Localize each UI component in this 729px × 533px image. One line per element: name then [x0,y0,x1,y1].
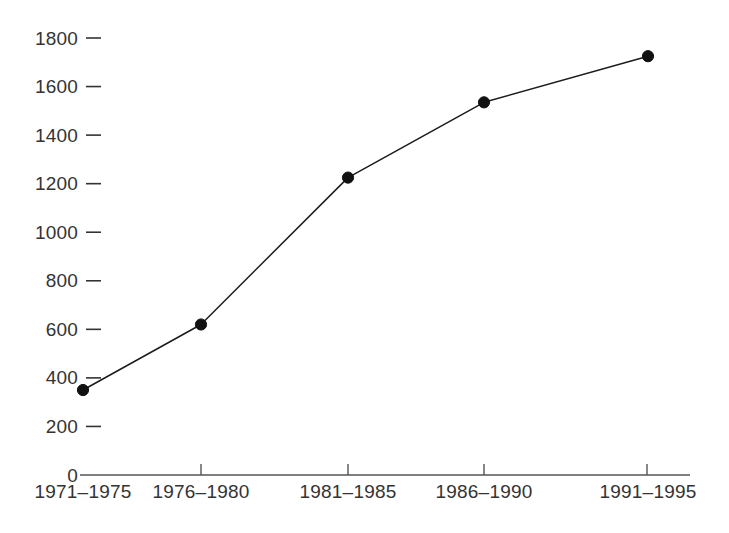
x-axis: 1971–19751976–19801981–19851986–19901991… [35,464,697,502]
y-axis-tick-label: 400 [46,367,78,388]
chart-canvas: 020040060080010001200140016001800 1971–1… [0,0,729,533]
y-axis-tick-label: 1800 [35,28,78,49]
line-chart: 020040060080010001200140016001800 1971–1… [0,0,729,533]
data-point-marker: 1991–1995: 1725 [642,51,653,62]
data-series: 1971–1975: 3501976–1980: 6201981–1985: 1… [77,51,653,396]
y-axis-tick-label: 200 [46,416,78,437]
x-axis-tick-label: 1991–1995 [600,481,697,502]
x-axis-tick-label: 1981–1985 [300,481,397,502]
y-axis-tick-label: 1600 [35,76,78,97]
x-axis-tick-label: 1986–1990 [436,481,533,502]
y-axis: 020040060080010001200140016001800 [35,28,101,486]
y-axis-tick-label: 1400 [35,125,78,146]
y-axis-tick-label: 800 [46,270,78,291]
data-point-marker: 1971–1975: 350 [77,384,88,395]
data-point-marker: 1981–1985: 1225 [342,172,353,183]
data-point-marker: 1986–1990: 1535 [478,97,489,108]
x-axis-tick-label: 1976–1980 [153,481,250,502]
series-line [83,56,648,390]
y-axis-tick-label: 1200 [35,173,78,194]
y-axis-tick-label: 600 [46,319,78,340]
x-axis-tick-label: 1971–1975 [35,481,132,502]
data-point-marker: 1976–1980: 620 [195,319,206,330]
y-axis-tick-label: 1000 [35,222,78,243]
